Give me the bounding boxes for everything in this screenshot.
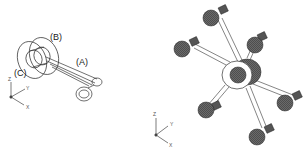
callout-b: (B) [50, 32, 62, 42]
ucs-y-label: Y [26, 85, 30, 91]
single-arm-drawing: (B) (A) (C) Z Y X [0, 0, 153, 153]
ucs-z-label: Z [8, 76, 11, 82]
callout-a: (A) [76, 57, 88, 67]
ucs-x-label: X [26, 104, 30, 110]
callout-c: (C) [14, 68, 27, 78]
ball-end-2 [174, 37, 199, 57]
ucs-axis-icon [10, 82, 25, 105]
center-hub [222, 59, 261, 89]
spider-assembly-drawing: Z Y X [150, 0, 306, 153]
ucs-y-label: Y [170, 121, 174, 127]
right-drawing-panel: Z Y X [150, 0, 306, 153]
ball-end-5 [198, 101, 221, 118]
left-drawing-panel: (B) (A) (C) Z Y X [0, 0, 153, 153]
ball-end-3 [247, 32, 267, 53]
ucs-x-label: X [169, 142, 173, 148]
ucs-z-label: Z [153, 111, 156, 117]
ucs-axis-icon [155, 118, 168, 143]
